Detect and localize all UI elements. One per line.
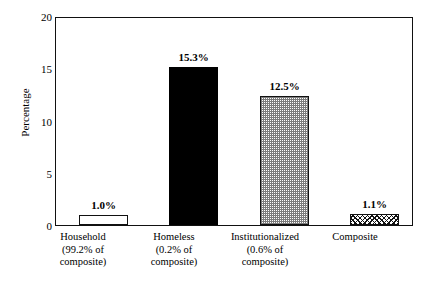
x-label-composite-line1: Composite [300, 231, 410, 244]
bar-homeless [169, 67, 218, 225]
bar-household [79, 215, 128, 225]
bar-value-homeless: 15.3% [178, 52, 208, 63]
x-label-composite: Composite [300, 231, 410, 244]
bar-group-composite: 1.1% [350, 18, 399, 225]
bar-institutionalized [260, 96, 309, 225]
bar-composite [350, 214, 399, 225]
plot-area: 1.0% 15.3% 12.5% 1.1% [55, 17, 413, 226]
x-label-institutionalized-line2: (0.6% of [210, 244, 320, 257]
bar-value-composite: 1.1% [362, 199, 387, 210]
bar-group-household: 1.0% [79, 18, 128, 225]
bar-group-homeless: 15.3% [169, 18, 218, 225]
bar-value-institutionalized: 12.5% [269, 81, 299, 92]
y-tick-label-0: 0 [24, 221, 52, 232]
x-label-institutionalized-line3: composite) [210, 256, 320, 269]
bar-chart: 0 5 10 15 20 Percentage 1.0% 15.3% 12.5% [0, 0, 434, 286]
bar-value-household: 1.0% [91, 200, 116, 211]
y-axis-title: Percentage [20, 68, 31, 158]
y-tick-label-5: 5 [24, 168, 52, 179]
y-tick-label-20: 20 [24, 12, 52, 23]
bar-group-institutionalized: 12.5% [260, 18, 309, 225]
